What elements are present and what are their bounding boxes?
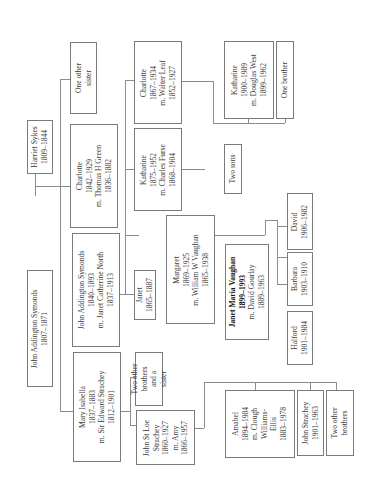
person-john-strachey: John Strachey1901–1963 [297, 390, 324, 456]
name: Mary Isabella [78, 371, 88, 444]
name: John St Loe [142, 419, 152, 455]
name: Katharine [139, 144, 149, 196]
label: brothers [340, 408, 350, 439]
name: John Strachey [301, 402, 311, 445]
connector [35, 174, 36, 196]
person-margaret-vaughan: Margaret1869–1925m. William W Vaughan186… [166, 215, 215, 324]
dates: 1809–1844 [40, 126, 50, 168]
name: John Addington Symonds [77, 251, 87, 329]
dates: 1900–1989 [239, 54, 249, 106]
dates: 1899–1993 [237, 257, 247, 327]
person-katharine-furse: Katharine1875–1952m. Charles Furse1868–1… [134, 128, 182, 211]
spouse: m. Amy [170, 419, 180, 455]
spouse: Williams- [260, 407, 270, 441]
spouse-dates: 1868–1904 [168, 144, 178, 196]
dates: 1867–1934 [148, 60, 158, 105]
connector [277, 284, 287, 285]
person-amabel: Amabel1894–1984m. CloughWilliams-Ellis18… [225, 390, 295, 458]
dates: 1860–1927 [161, 419, 171, 455]
person-two-sons: Two sons [224, 144, 242, 194]
dates: 1901–1963 [311, 402, 321, 445]
dates: 1894–1984 [241, 407, 251, 441]
person-charlotte-leaf: Charlotte1867–1934m. Walter Leaf1852–192… [134, 41, 182, 124]
name: Amabel [231, 407, 241, 441]
spouse: m. Janet Catherine North [96, 251, 106, 329]
label: Two sons [228, 155, 238, 184]
connector [265, 220, 277, 221]
spouse: m. David Gourlay [247, 257, 257, 327]
connector [336, 382, 337, 390]
connector [310, 382, 311, 390]
person-katharine-west: Katharine1900–1989m. Douglas West1899–19… [224, 41, 274, 119]
name: Charlotte [139, 60, 149, 105]
connector [215, 235, 265, 236]
spouse: Ellis [270, 407, 280, 441]
name: Strachey [151, 419, 161, 455]
spouse-dates: 1837–1913 [106, 251, 116, 329]
spouse-dates: 1866–1957 [180, 419, 190, 455]
person-janet-maria-vaughan: Janet Maria Vaughan1899–1993m. David Gou… [225, 244, 269, 340]
person-barbara: Barbara1903–1910 [287, 252, 313, 306]
spouse: m. Thomas H Green [94, 145, 104, 207]
connector [277, 220, 278, 284]
dates: 1865–1887 [145, 278, 155, 312]
spouse: m. Douglas West [249, 54, 259, 106]
spouse-dates: 1836–1882 [104, 145, 114, 207]
person-mary-isabella: Mary Isabella1837–1883m. Sir Edward Stra… [73, 352, 121, 462]
spouse-dates: 1889–1963 [257, 257, 267, 327]
name: Halford [290, 321, 300, 355]
dates: 1906–1982 [300, 204, 310, 238]
spouse: m. Charles Furse [158, 144, 168, 196]
label: and a [149, 364, 159, 395]
name: Margaret [171, 234, 181, 305]
spouse-dates: 1812–1901 [107, 371, 117, 444]
label: Two other [130, 364, 140, 395]
name: John Addington Symonds [30, 289, 40, 367]
connector [60, 79, 70, 80]
person-janet: Janet1865–1887 [134, 270, 156, 320]
dates: 1807–1871 [40, 289, 50, 367]
spouse: m. Walter Leaf [158, 60, 168, 105]
connector [181, 169, 205, 170]
dates: 1869–1925 [181, 234, 191, 305]
connector [60, 79, 61, 411]
connector [255, 382, 256, 390]
person-one-other-sister: One othersister [70, 42, 97, 114]
connector [120, 411, 130, 412]
connector [204, 382, 205, 428]
person-john-addington-symonds-sr: John Addington Symonds1807–1871 [27, 270, 53, 387]
person-two-other-brothers: Two otherbrothers [326, 390, 354, 456]
dates: 1842–1929 [84, 145, 94, 207]
spouse: m. William W Vaughan [191, 234, 201, 305]
connector [125, 235, 139, 236]
dates: 1840–1893 [86, 251, 96, 329]
connector [120, 294, 134, 295]
spouse-dates: 1865–1938 [200, 234, 210, 305]
label: One other [74, 63, 84, 93]
connector [35, 186, 60, 187]
connector [265, 220, 266, 235]
dates: 1837–1883 [87, 371, 97, 444]
label: One brother [280, 62, 290, 98]
name: David [290, 204, 300, 238]
spouse-dates: 1883–1978 [279, 407, 289, 441]
name: Janet Maria Vaughan [228, 257, 238, 327]
dates: 1901–1984 [300, 321, 310, 355]
connector [194, 428, 204, 429]
connector [277, 257, 287, 258]
connector [213, 81, 214, 123]
name: Katharine [230, 54, 240, 106]
label: sister [84, 63, 94, 93]
connector [204, 382, 336, 383]
name: Janet [135, 278, 145, 312]
spouse-dates: 1852–1927 [168, 60, 178, 105]
person-one-brother: One brother [276, 41, 294, 119]
person-john-addington-symonds-jr: John Addington Symonds1840–1893m. Janet … [72, 233, 120, 347]
connector [60, 411, 73, 412]
connector [181, 81, 213, 82]
dates: 1875–1952 [148, 144, 158, 196]
label: Two other [330, 408, 340, 439]
connector [213, 123, 285, 124]
person-harriet-sykes: Harriet Sykes1809–1844 [27, 120, 53, 174]
label: brothers [139, 364, 149, 395]
